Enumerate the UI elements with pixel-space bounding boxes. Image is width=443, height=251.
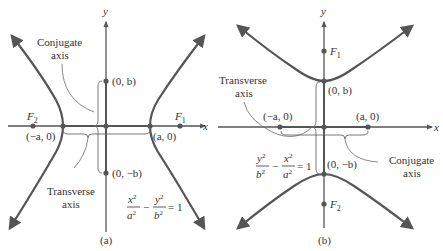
svg-text:b2: b2 xyxy=(154,209,164,221)
svg-text:b2: b2 xyxy=(256,168,266,180)
conjugate-leader xyxy=(62,64,94,112)
conjugate-label-line2: axis xyxy=(403,167,421,179)
panel-b: y x F1 F2 (0, b) (0, −b) (−a, 0) (a, 0) … xyxy=(218,5,439,247)
panel-a: y x (0, b) (0, −b) (−a, 0) (a, 0) F2 F1 … xyxy=(8,5,208,247)
conjugate-label-line2: axis xyxy=(51,49,69,61)
transverse-leader xyxy=(74,138,88,168)
conjugate-label-line1: Conjugate xyxy=(389,154,434,166)
svg-text:= 1: = 1 xyxy=(168,201,182,213)
transverse-label-line2: axis xyxy=(62,198,80,210)
label-0-b: (0, b) xyxy=(112,75,136,88)
label-a-0: (a, 0) xyxy=(356,110,380,123)
origin-point xyxy=(321,124,326,129)
svg-text:y2: y2 xyxy=(154,193,164,205)
svg-text:x2: x2 xyxy=(283,152,293,164)
equation-b: y2 b2 − x2 a2 = 1 xyxy=(256,152,311,180)
svg-text:a2: a2 xyxy=(127,209,137,221)
vertex-a xyxy=(147,123,152,128)
label-f1: F1 xyxy=(174,110,186,125)
x-axis-label: x xyxy=(202,120,208,132)
svg-text:−: − xyxy=(143,201,149,213)
svg-text:a2: a2 xyxy=(283,168,293,180)
focus-f2 xyxy=(321,201,326,206)
svg-text:= 1: = 1 xyxy=(297,160,311,172)
caption-b: (b) xyxy=(318,234,331,247)
label-0-neg-b: (0, −b) xyxy=(112,167,142,180)
vertex-neg-a xyxy=(60,123,65,128)
vertex-0-neg-b xyxy=(321,171,326,176)
conjugate-label-line1: Conjugate xyxy=(37,36,82,48)
point-0-neg-b xyxy=(103,170,108,175)
focus-f1 xyxy=(321,48,326,53)
svg-text:x2: x2 xyxy=(127,193,137,205)
label-0-b: (0, b) xyxy=(328,84,352,97)
y-axis-label: y xyxy=(320,5,326,17)
vertex-0-b xyxy=(321,78,326,83)
label-f2: F2 xyxy=(329,198,341,213)
caption-a: (a) xyxy=(100,234,113,247)
upper-branch xyxy=(238,26,412,81)
point-0-b xyxy=(103,78,108,83)
svg-text:−: − xyxy=(272,160,278,172)
label-f1: F1 xyxy=(329,45,341,60)
hyperbola-figure: y x (0, b) (0, −b) (−a, 0) (a, 0) F2 F1 … xyxy=(0,0,443,251)
point-a-0 xyxy=(365,124,370,129)
svg-text:y2: y2 xyxy=(256,152,266,164)
x-axis-label: x xyxy=(433,121,439,133)
equation-a: x2 a2 − y2 b2 = 1 xyxy=(127,193,182,221)
transverse-label-line1: Transverse xyxy=(47,185,95,197)
transverse-label-line2: axis xyxy=(235,87,253,99)
lower-branch xyxy=(238,174,412,228)
point-neg-a-0 xyxy=(277,124,282,129)
label-neg-a-0: (−a, 0) xyxy=(26,130,56,143)
transverse-label-line1: Transverse xyxy=(219,74,267,86)
label-a-0: (a, 0) xyxy=(153,130,177,143)
y-axis-label: y xyxy=(102,5,108,17)
label-0-neg-b: (0, −b) xyxy=(327,158,357,171)
label-neg-a-0: (−a, 0) xyxy=(263,110,293,123)
origin-point xyxy=(103,123,108,128)
label-f2: F2 xyxy=(26,110,38,125)
